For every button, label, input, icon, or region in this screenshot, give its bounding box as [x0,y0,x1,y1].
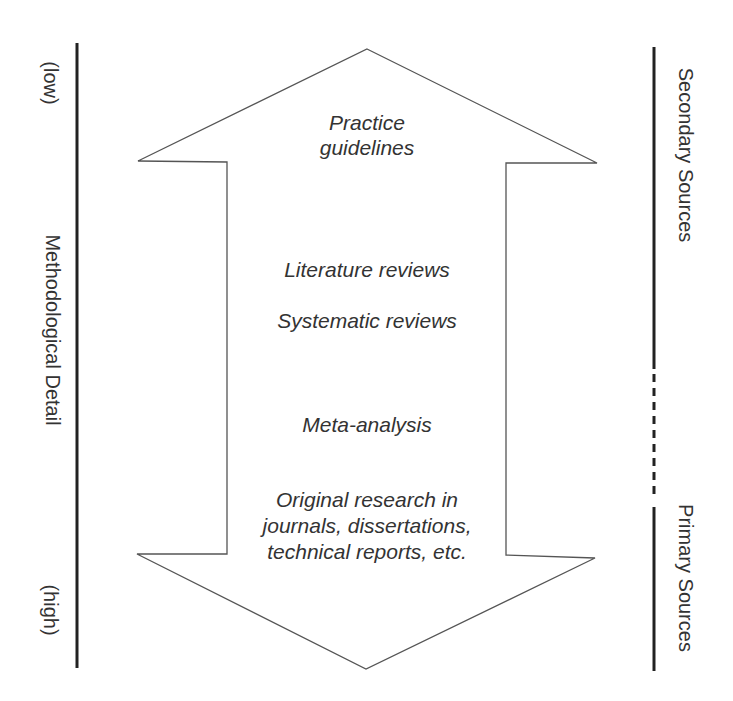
arrow-item-line: Literature reviews [284,257,450,282]
arrow-item-line: Systematic reviews [277,308,457,333]
arrow-item-practice-guidelines: Practice guidelines [320,110,415,160]
arrow-item-line: technical reports, etc. [263,539,472,565]
arrow-item-systematic-reviews: Systematic reviews [277,308,457,333]
right-axis-top-label: Secondary Sources [674,68,697,243]
diagram-canvas [0,0,733,701]
left-axis-top-label: (low) [39,61,62,104]
arrow-item-line: Meta-analysis [302,412,432,437]
arrow-item-line: journals, dissertations, [263,513,472,539]
right-axis-bottom-label: Primary Sources [674,504,697,652]
arrow-item-line: Practice [320,110,415,135]
arrow-item-line: Original research in [263,487,472,513]
arrow-item-literature-reviews: Literature reviews [284,257,450,282]
arrow-item-original-research: Original research in journals, dissertat… [263,487,472,565]
arrow-item-meta-analysis: Meta-analysis [302,412,432,437]
left-axis-bottom-label: (high) [39,584,62,635]
arrow-item-line: guidelines [320,135,415,160]
left-axis-title: Methodological Detail [41,234,64,425]
